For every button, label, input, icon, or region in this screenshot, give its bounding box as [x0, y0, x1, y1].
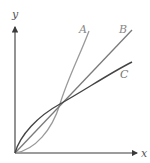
y-axis-label: y — [11, 8, 19, 21]
function-curves-diagram: y x A B C — [0, 0, 150, 163]
curve-c — [15, 62, 132, 153]
curve-b-label: B — [118, 23, 127, 36]
curve-c-label: C — [120, 68, 129, 81]
curve-b — [15, 30, 132, 153]
curve-a — [15, 31, 89, 153]
x-axis-label: x — [141, 147, 148, 160]
curve-a-label: A — [78, 23, 87, 36]
